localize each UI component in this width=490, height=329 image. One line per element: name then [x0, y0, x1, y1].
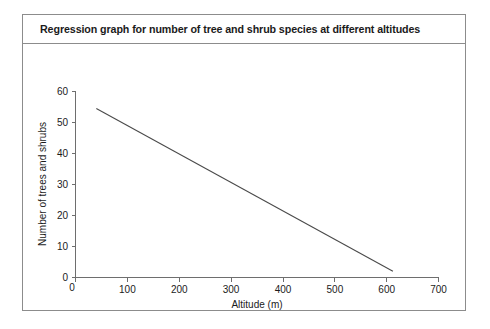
figure-frame: Regression graph for number of tree and … — [22, 14, 466, 311]
y-tick-label: 40 — [57, 148, 69, 159]
y-tick-label: 0 — [62, 272, 68, 283]
x-tick-label: 200 — [171, 284, 188, 295]
x-tick-label: 600 — [378, 284, 395, 295]
y-axis-ticks — [72, 92, 76, 278]
y-axis-title: Number of trees and shrubs — [37, 122, 48, 246]
x-tick-label: 0 — [69, 282, 75, 293]
x-tick-label: 500 — [327, 284, 344, 295]
y-tick-label: 20 — [57, 210, 69, 221]
x-tick-label: 700 — [430, 284, 447, 295]
regression-line — [96, 109, 393, 272]
chart-title-box: Regression graph for number of tree and … — [23, 15, 465, 44]
y-tick-label: 60 — [57, 86, 69, 97]
y-axis-tick-labels: 0 10 20 30 40 50 60 — [57, 86, 69, 283]
x-axis-tick-labels: 0 100 200 300 400 500 600 700 — [69, 282, 447, 295]
page-title: Regression graph for number of tree and … — [23, 23, 420, 35]
y-tick-label: 30 — [57, 179, 69, 190]
y-tick-label: 10 — [57, 241, 69, 252]
plot-region: 0 10 20 30 40 50 60 0 — [23, 44, 465, 311]
x-tick-label: 100 — [119, 284, 136, 295]
regression-chart: 0 10 20 30 40 50 60 0 — [23, 44, 465, 311]
x-tick-label: 300 — [223, 284, 240, 295]
y-tick-label: 50 — [57, 117, 69, 128]
x-axis-title: Altitude (m) — [231, 299, 282, 310]
x-axis-ticks — [76, 278, 439, 282]
x-tick-label: 400 — [275, 284, 292, 295]
